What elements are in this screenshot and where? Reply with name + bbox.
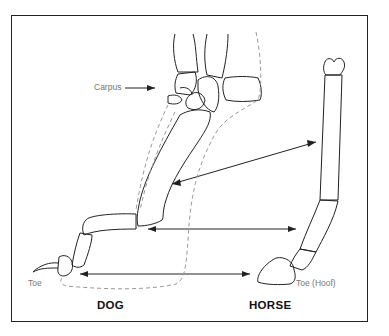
dog-distal-phalanx (58, 256, 73, 276)
horse-title: HORSE (249, 299, 291, 311)
dog-radius-end (174, 34, 198, 72)
horse-toe-label: Toe (Hoof) (296, 278, 336, 288)
dog-ulna-end (205, 34, 228, 78)
carpus-label: Carpus (94, 82, 121, 92)
dog-title: DOG (97, 299, 124, 311)
horse-pastern-upper (300, 200, 338, 252)
horse-hoof (258, 258, 296, 285)
dog-proximal-phalanx (83, 214, 136, 235)
carpal-3 (223, 77, 261, 102)
dog-claw (33, 263, 58, 272)
comparison-arrows (80, 88, 316, 274)
carpal-1 (175, 72, 196, 95)
dog-toe-label: Toe (28, 278, 42, 288)
dog-middle-phalanx (72, 233, 92, 267)
dog-skin-outline-inner2 (140, 112, 175, 210)
dog-skin-outline-outer (61, 32, 261, 289)
carpal-5 (168, 95, 182, 104)
horse-cannon-bone (320, 75, 342, 200)
horse-carpal-top (324, 58, 345, 75)
dog-skin-outline-inner (136, 105, 168, 210)
